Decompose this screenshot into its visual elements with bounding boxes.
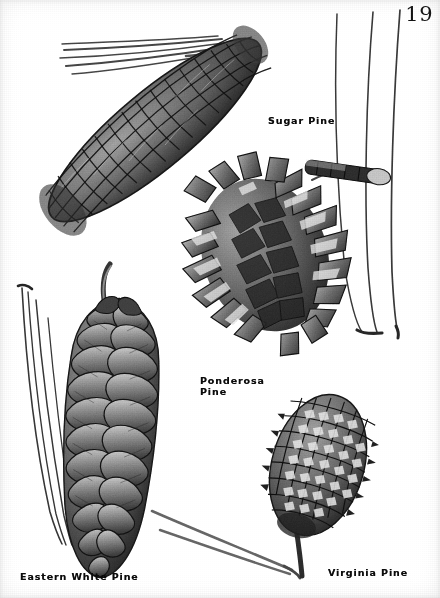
label-sugar-pine: Sugar Pine <box>268 115 335 126</box>
illustration-plate: Sugar Pine Ponderosa Pine Eastern White … <box>0 0 440 598</box>
label-virginia-pine: Virginia Pine <box>328 567 408 578</box>
virginia-pine-stem <box>296 527 302 576</box>
eastern-white-pine-stalk <box>103 264 111 300</box>
label-ponderosa-pine: Ponderosa Pine <box>200 375 265 397</box>
ponderosa-pine-needles <box>312 10 400 338</box>
sugar-pine-needles <box>60 36 258 74</box>
page-number: 19 <box>405 2 433 26</box>
eastern-white-pine-needles <box>18 285 78 545</box>
virginia-pine-needles <box>152 511 300 578</box>
label-eastern-white-pine: Eastern White Pine <box>20 571 139 582</box>
line-art-layer <box>0 0 440 598</box>
